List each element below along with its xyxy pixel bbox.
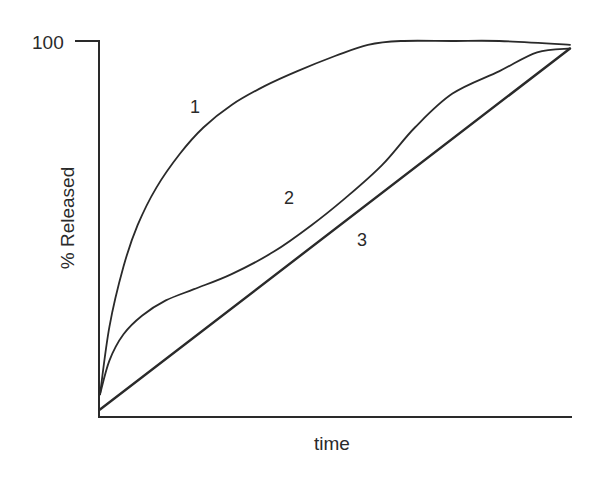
series-group	[100, 41, 570, 410]
series-line-3	[100, 49, 570, 410]
plot-area	[0, 0, 605, 480]
curve-label-3: 3	[357, 231, 367, 249]
series-line-1	[100, 41, 570, 395]
release-profile-chart: 100 % Released time 1 2 3	[0, 0, 605, 480]
y-axis-label: % Released	[58, 167, 77, 269]
x-axis-label: time	[314, 434, 350, 453]
curve-label-2: 2	[284, 189, 294, 207]
series-line-2	[100, 49, 570, 395]
curve-label-1: 1	[190, 98, 200, 116]
y-tick-label-100: 100	[32, 33, 64, 52]
